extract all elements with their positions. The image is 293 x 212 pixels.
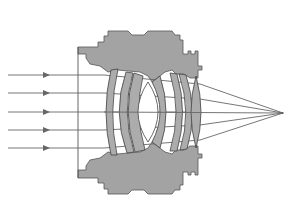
incoming-rays: [8, 72, 104, 151]
arrow-icon: [43, 72, 50, 78]
arrow-icon: [43, 127, 50, 133]
focal-point: [282, 112, 284, 114]
lens-cross-section-diagram: [0, 0, 293, 212]
arrow-icon: [43, 109, 50, 115]
arrow-icon: [43, 145, 50, 151]
converging-rays: [200, 84, 283, 140]
lens-element-biconvex-rear: [191, 76, 201, 148]
arrow-icon: [43, 90, 50, 96]
